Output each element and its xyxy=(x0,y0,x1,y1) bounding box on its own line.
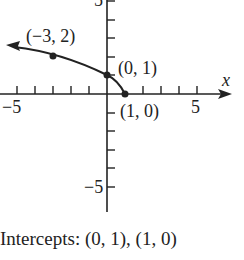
x-axis-label: x xyxy=(221,70,230,90)
x-tick-label-5: 5 xyxy=(191,97,200,117)
point-0-1 xyxy=(104,72,111,79)
point-label-neg3-2: (−3, 2) xyxy=(26,26,75,47)
y-tick-label-neg5: −5 xyxy=(84,177,103,197)
x-tick-label-neg5: −5 xyxy=(2,97,21,117)
point-label-0-1: (0, 1) xyxy=(118,58,157,79)
point-label-1-0: (1, 0) xyxy=(120,101,159,122)
point-1-0 xyxy=(122,91,129,98)
function-curve xyxy=(14,47,125,94)
curve-left-arrow-icon xyxy=(6,41,20,51)
y-tick-label-5: 5 xyxy=(94,0,103,10)
intercepts-caption: Intercepts: (0, 1), (1, 0) xyxy=(0,228,244,250)
point-neg3-2 xyxy=(50,53,57,60)
graph: x −5 5 5 −5 (−3, 2) (0, 1) (1, 0) xyxy=(0,0,244,226)
